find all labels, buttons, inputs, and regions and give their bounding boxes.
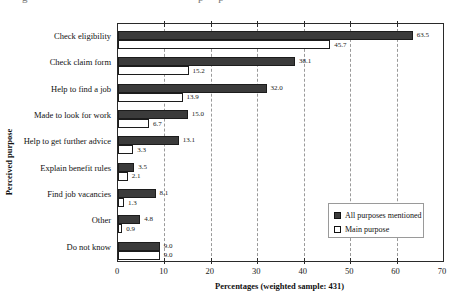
axis-tick-bottom-60 bbox=[397, 258, 398, 264]
bar-value-label: 4.8 bbox=[144, 215, 153, 224]
bar-all-purposes bbox=[118, 84, 267, 93]
bar-value-label: 1.3 bbox=[128, 199, 137, 208]
bar-main-purpose bbox=[118, 172, 128, 181]
bar-value-label: 8.1 bbox=[160, 189, 169, 198]
legend-label: Main purpose bbox=[345, 225, 389, 234]
category-label: Other bbox=[0, 215, 111, 226]
axis-tick-top-60 bbox=[397, 21, 398, 27]
bar-value-label: 32.0 bbox=[271, 84, 283, 93]
figure-chart: g p p Perceived purpose Check eligibilit… bbox=[0, 0, 458, 302]
bar-main-purpose bbox=[118, 119, 149, 128]
bar-all-purposes bbox=[118, 110, 188, 119]
axis-tick-bottom-50 bbox=[350, 258, 351, 264]
bar-value-label: 3.3 bbox=[137, 146, 146, 155]
axis-tick-top-40 bbox=[304, 21, 305, 27]
bar-all-purposes bbox=[118, 163, 134, 172]
bar-all-purposes bbox=[118, 215, 140, 224]
clipped-caption-fragment: g bbox=[22, 0, 28, 3]
bar-value-label: 0.9 bbox=[126, 225, 135, 234]
legend-swatch-filled-icon bbox=[334, 212, 341, 219]
bar-value-label: 13.9 bbox=[187, 93, 199, 102]
bar-main-purpose bbox=[118, 66, 189, 75]
axis-tick-top-30 bbox=[257, 21, 258, 27]
bar-main-purpose bbox=[118, 251, 160, 260]
axis-tick-bottom-40 bbox=[304, 258, 305, 264]
category-label: Help to get further advice bbox=[0, 136, 111, 147]
bar-value-label: 3.5 bbox=[138, 163, 147, 172]
x-tick-label-10: 10 bbox=[159, 266, 168, 276]
legend-item-all-purposes: All purposes mentioned bbox=[334, 208, 423, 222]
x-tick-label-60: 60 bbox=[391, 266, 400, 276]
bar-value-label: 6.7 bbox=[153, 120, 162, 129]
category-label: Find job vacancies bbox=[0, 189, 111, 200]
bar-value-label: 15.2 bbox=[193, 67, 205, 76]
bar-main-purpose bbox=[118, 198, 124, 207]
bar-value-label: 2.1 bbox=[132, 172, 141, 181]
bar-all-purposes bbox=[118, 242, 160, 251]
axis-tick-bottom-20 bbox=[211, 258, 212, 264]
category-axis-labels: Check eligibilityCheck claim formHelp to… bbox=[0, 23, 111, 260]
bar-main-purpose bbox=[118, 93, 183, 102]
x-tick-label-30: 30 bbox=[252, 266, 261, 276]
category-label: Made to look for work bbox=[0, 110, 111, 121]
bar-value-label: 15.0 bbox=[192, 110, 204, 119]
axis-tick-top-10 bbox=[164, 21, 165, 27]
axis-tick-top-50 bbox=[350, 21, 351, 27]
bar-main-purpose bbox=[118, 40, 330, 49]
category-label: Explain benefit rules bbox=[0, 163, 111, 174]
bar-all-purposes bbox=[118, 31, 413, 40]
legend-item-main-purpose: Main purpose bbox=[334, 222, 423, 236]
x-tick-label-70: 70 bbox=[438, 266, 447, 276]
bar-main-purpose bbox=[118, 224, 122, 233]
axis-tick-bottom-30 bbox=[257, 258, 258, 264]
category-label: Check eligibility bbox=[0, 31, 111, 42]
bar-main-purpose bbox=[118, 145, 133, 154]
bar-value-label: 63.5 bbox=[417, 31, 429, 40]
category-label: Do not know bbox=[0, 242, 111, 253]
x-tick-label-20: 20 bbox=[206, 266, 215, 276]
category-label: Check claim form bbox=[0, 57, 111, 68]
bar-value-label: 38.1 bbox=[299, 57, 311, 66]
bar-all-purposes bbox=[118, 136, 179, 145]
bar-value-label: 9.0 bbox=[164, 242, 173, 251]
legend-box: All purposes mentioned Main purpose bbox=[328, 203, 424, 238]
bar-value-label: 45.7 bbox=[334, 41, 346, 50]
bar-all-purposes bbox=[118, 57, 295, 66]
clipped-caption-fragment: p p bbox=[198, 0, 230, 3]
x-axis-title: Percentages (weighted sample: 431) bbox=[117, 281, 442, 291]
legend-swatch-outlined-icon bbox=[334, 226, 341, 233]
x-tick-label-0: 0 bbox=[115, 266, 119, 276]
bar-all-purposes bbox=[118, 189, 156, 198]
axis-tick-top-20 bbox=[211, 21, 212, 27]
bar-value-label: 13.1 bbox=[183, 136, 195, 145]
bar-value-label: 9.0 bbox=[164, 251, 173, 260]
x-axis-tick-labels: 010203040506070 bbox=[117, 266, 442, 278]
x-tick-label-50: 50 bbox=[345, 266, 354, 276]
legend-label: All purposes mentioned bbox=[345, 211, 421, 220]
category-label: Help to find a job bbox=[0, 84, 111, 95]
x-tick-label-40: 40 bbox=[298, 266, 307, 276]
clipped-caption: g p p bbox=[0, 0, 458, 4]
